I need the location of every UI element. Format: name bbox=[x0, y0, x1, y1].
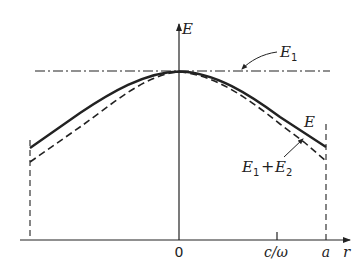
svg-text:1: 1 bbox=[291, 52, 297, 63]
svg-text:+: + bbox=[261, 157, 274, 176]
tick-label-c-omega: c/ω bbox=[264, 244, 289, 260]
curve-E bbox=[30, 72, 326, 149]
leader-E1-plus-E2 bbox=[284, 139, 303, 157]
svg-text:2: 2 bbox=[286, 167, 292, 178]
tick-label-a: a bbox=[322, 244, 330, 260]
label-E1-plus-E2: E 1 + E 2 bbox=[241, 157, 292, 178]
tick-label-0: 0 bbox=[175, 244, 184, 260]
svg-text:1: 1 bbox=[253, 167, 259, 178]
y-axis-label: E bbox=[181, 20, 193, 38]
x-axis-label: r bbox=[343, 243, 351, 261]
svg-text:E: E bbox=[279, 43, 291, 61]
svg-text:E: E bbox=[274, 158, 286, 176]
label-E1: E 1 bbox=[279, 43, 297, 63]
field-profile-diagram: E r 0 c/ω a E 1 E E 1 + E 2 bbox=[0, 0, 360, 271]
leader-E1 bbox=[242, 52, 277, 69]
label-E: E bbox=[303, 113, 315, 131]
svg-text:E: E bbox=[241, 158, 253, 176]
